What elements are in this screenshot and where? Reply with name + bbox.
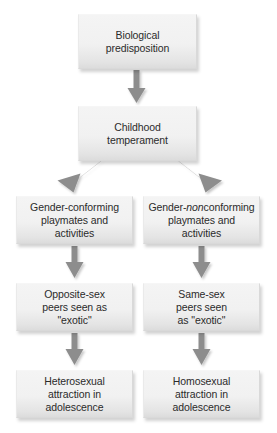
node-heterosexual-attraction: Heterosexualattraction inadolescence (16, 370, 133, 418)
node-label: Heterosexualattraction inadolescence (20, 375, 129, 414)
edge-predisposition-to-temperament (128, 70, 146, 103)
node-gender-conforming-playmates: Gender-conformingplaymates andactivities (16, 196, 133, 244)
node-childhood-temperament: Childhoodtemperament (78, 106, 197, 161)
edge-nonconforming-to-same-sex (193, 246, 211, 278)
node-label: Biologicalpredisposition (82, 29, 193, 55)
edge-temperament-to-conforming (58, 158, 105, 192)
node-label: Gender-nonconformingplaymates andactivit… (147, 201, 256, 240)
edge-conforming-to-opposite-sex (66, 246, 84, 278)
flowchart-diagram: Biologicalpredisposition Childhoodtemper… (0, 0, 277, 433)
edge-opposite-sex-to-heterosexual (66, 333, 84, 365)
node-same-sex-peers-exotic: Same-sexpeers seenas "exotic" (143, 283, 260, 331)
node-label: Opposite-sexpeers seen as"exotic" (20, 288, 129, 327)
edge-same-sex-to-homosexual (193, 333, 211, 365)
node-opposite-sex-peers-exotic: Opposite-sexpeers seen as"exotic" (16, 283, 133, 331)
node-label: Childhoodtemperament (82, 121, 193, 147)
node-homosexual-attraction: Homosexualattraction inadolescence (143, 370, 260, 418)
node-gender-nonconforming-playmates: Gender-nonconformingplaymates andactivit… (143, 196, 260, 244)
node-biological-predisposition: Biologicalpredisposition (78, 14, 197, 69)
node-label: Homosexualattraction inadolescence (147, 375, 256, 414)
node-label: Same-sexpeers seenas "exotic" (147, 288, 256, 327)
node-label: Gender-conformingplaymates andactivities (20, 201, 129, 240)
edge-temperament-to-nonconforming (175, 158, 222, 192)
